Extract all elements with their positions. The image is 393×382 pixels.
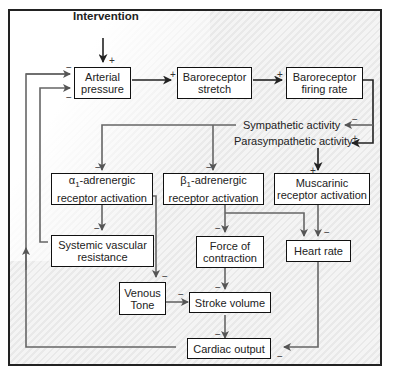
edge-heartrate-co	[284, 261, 318, 347]
node-systemic-vascular-resistance: Systemic vascularresistance	[51, 235, 154, 267]
edge-svr-arterial	[40, 88, 70, 242]
sign-alpha-venous: −	[162, 272, 168, 282]
node-text: -adrenergic	[80, 174, 136, 186]
node-cardiac-output: Cardiac output	[187, 338, 271, 359]
node-beta1-activation: β1-adrenergicreceptor activation	[163, 173, 264, 205]
sign-stretch-firing: +	[277, 70, 283, 80]
sign-force-stroke: −	[215, 283, 221, 293]
sign-hr-co: −	[277, 352, 283, 362]
sign-svr-arterial: −	[66, 93, 72, 103]
sign-venous-stroke: −	[178, 290, 184, 300]
node-text: receptor activation	[57, 192, 147, 204]
node-text: Muscarinic	[296, 177, 349, 189]
intervention-label: Intervention	[73, 10, 139, 22]
node-alpha1-activation: α1-adrenergicreceptor activation	[51, 173, 153, 205]
node-text: resistance	[77, 251, 127, 263]
sign-intervention: +	[109, 56, 115, 66]
node-text: pressure	[81, 83, 124, 95]
node-text: stretch	[198, 83, 231, 95]
node-text: Baroreceptor	[293, 71, 357, 83]
node-heart-rate: Heart rate	[286, 240, 351, 262]
node-text: contraction	[203, 252, 257, 264]
node-text: Arterial	[85, 71, 120, 83]
node-stroke-volume: Stroke volume	[189, 292, 271, 313]
node-text: Tone	[131, 299, 155, 311]
node-baroreceptor-firing-rate: Baroreceptorfiring rate	[286, 67, 363, 99]
node-text: receptor activation	[169, 192, 259, 204]
node-arterial-pressure: Arterialpressure	[74, 67, 131, 99]
sign-sym-beta: −	[206, 163, 212, 173]
sign-musc-hr: −	[324, 228, 330, 238]
node-text: firing rate	[302, 83, 348, 95]
node-text: Baroreceptor	[183, 71, 247, 83]
node-text: Systemic vascular	[58, 239, 147, 251]
node-sympathetic-activity: Sympathetic activity	[243, 119, 340, 131]
sign-beta-force: −	[215, 224, 221, 234]
sign-co-arterial: −	[66, 63, 72, 73]
edge-sympathetic-alpha	[102, 125, 236, 170]
node-text: Venous	[124, 287, 161, 299]
edge-beta-heartrate	[225, 213, 304, 236]
node-text: receptor activation	[277, 189, 367, 201]
sign-arterial-stretch: +	[170, 70, 176, 80]
sign-sympathetic: −	[352, 115, 358, 125]
sign-stroke-co: −	[215, 330, 221, 340]
node-venous-tone: VenousTone	[119, 282, 166, 315]
node-muscarinic-activation: Muscarinicreceptor activation	[274, 173, 370, 205]
node-force-of-contraction: Force ofcontraction	[196, 236, 264, 268]
node-parasympathetic-activity: Parasympathetic activity	[234, 135, 353, 147]
node-text: Force of	[210, 240, 250, 252]
sign-alpha-svr: −	[94, 224, 100, 234]
node-text: -adrenergic	[191, 174, 247, 186]
node-baroreceptor-stretch: Baroreceptorstretch	[177, 67, 252, 99]
sign-sym-alpha: −	[95, 163, 101, 173]
sign-para-musc: +	[310, 166, 316, 176]
sign-parasympathetic: +	[352, 134, 358, 144]
